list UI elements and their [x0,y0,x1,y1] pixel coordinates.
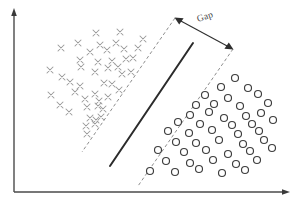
data-point-cross [83,123,89,129]
data-point-cross [119,71,125,77]
data-point-circle [196,166,203,173]
gap-arrowhead-right [224,42,233,49]
data-point-circle [216,137,223,144]
data-point-cross [47,67,53,73]
data-point-cross [105,94,111,100]
data-point-circle [229,122,236,129]
data-point-circle [237,103,244,110]
axes-group [11,8,290,195]
data-point-cross [123,56,129,62]
data-point-circle [232,75,239,82]
data-point-cross [109,81,115,87]
data-point-circle [219,170,226,177]
data-point-cross [101,80,107,86]
data-point-circle [210,157,217,164]
data-point-cross [87,115,93,121]
data-point-cross [66,109,72,115]
data-point-cross [77,57,83,63]
left-margin-dashed-line [82,18,175,152]
data-point-cross [84,131,90,137]
data-point-cross [128,69,134,75]
data-point-circle [243,113,250,120]
data-point-circle [256,128,263,135]
data-point-cross [87,49,93,55]
data-point-cross [104,47,110,53]
data-point-circle [202,92,209,99]
data-point-circle [203,147,210,154]
data-point-cross [135,45,141,51]
data-point-circle [265,100,272,107]
data-point-circle [235,131,242,138]
data-point-cross [93,30,99,36]
data-point-circle [193,140,200,147]
data-point-circle [225,95,232,102]
data-point-circle [233,161,240,168]
data-point-cross [75,40,81,46]
data-point-circle [255,91,262,98]
data-point-circle [221,115,228,122]
data-point-circle [181,149,188,156]
data-point-circle [197,121,204,128]
data-point-cross [59,74,65,80]
data-point-circle [242,167,249,174]
data-point-cross [92,69,98,75]
data-point-cross [78,64,84,70]
circle-markers-group [147,75,277,177]
data-point-cross [105,65,111,71]
x-axis-arrowhead [282,189,290,195]
data-point-circle [206,109,213,116]
data-point-circle [155,147,162,154]
svm-margin-diagram: Gap [0,0,293,204]
data-point-circle [147,168,154,175]
data-point-circle [258,110,265,117]
data-point-circle [218,84,225,91]
data-point-circle [193,102,200,109]
data-point-cross [113,40,119,46]
data-point-circle [240,141,247,148]
data-point-circle [211,101,218,108]
data-point-circle [187,160,194,167]
data-point-cross [130,55,136,61]
data-point-circle [209,127,216,134]
data-point-circle [245,85,252,92]
data-point-circle [187,112,194,119]
gap-label: Gap [196,9,215,24]
data-point-cross [140,36,146,42]
data-point-circle [172,169,179,176]
data-point-cross [57,102,63,108]
data-point-cross [67,79,73,85]
data-point-cross [109,58,115,64]
data-point-circle [165,128,172,135]
data-point-circle [186,130,193,137]
gap-arrow-shaft [179,20,229,47]
data-point-circle [173,139,180,146]
decision-boundary-line [110,43,193,166]
data-point-circle [175,119,182,126]
gap-annotation-group: Gap [175,9,234,49]
data-point-cross [72,89,78,95]
data-point-cross [58,45,64,51]
data-point-circle [254,157,261,164]
data-point-circle [225,151,232,158]
right-margin-dashed-line [138,49,233,186]
data-point-cross [84,104,90,110]
cross-markers-group [47,29,146,137]
data-point-cross [92,121,98,127]
data-point-circle [269,145,276,152]
data-point-cross [82,96,88,102]
data-point-circle [261,137,268,144]
data-point-circle [247,148,254,155]
scatter-plot-canvas: Gap [0,0,293,204]
data-point-circle [249,121,256,128]
data-point-cross [48,92,54,98]
data-point-cross [121,46,127,52]
data-point-cross [117,29,123,35]
data-point-cross [77,83,83,89]
gap-arrowhead-left [175,18,184,25]
data-point-cross [92,91,98,97]
data-point-cross [95,59,101,65]
data-point-cross [116,87,122,93]
y-axis-arrowhead [11,8,17,16]
data-point-cross [115,64,121,70]
data-point-cross [97,42,103,48]
